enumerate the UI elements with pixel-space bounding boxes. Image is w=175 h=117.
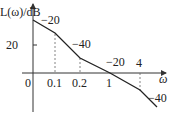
slope-label-2: −40 — [72, 37, 91, 51]
x-tick-label-4: 4 — [136, 56, 142, 70]
y-axis-label: L(ω)/dB — [0, 5, 41, 19]
x-tick-label-0.2: 0.2 — [72, 76, 87, 90]
bode-magnitude-plot: L(ω)/dB ω 20 0 0.1 0.2 1 4 −20 −40 −20 −… — [0, 0, 175, 117]
slope-label-3: −20 — [106, 55, 125, 69]
y-tick-label-20: 20 — [6, 38, 18, 52]
origin-label: 0 — [25, 76, 31, 90]
slope-label-4: −40 — [148, 91, 167, 105]
x-tick-label-1: 1 — [106, 76, 112, 90]
slope-label-1: −20 — [41, 13, 60, 27]
x-axis-label: ω — [159, 72, 167, 86]
x-tick-label-0.1: 0.1 — [47, 76, 62, 90]
